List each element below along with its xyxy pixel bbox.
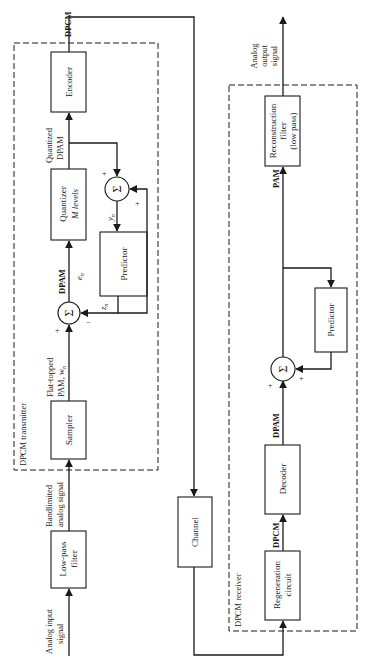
reconstruction-label-1: Reconstruction: [268, 103, 278, 158]
sigma-icon: Σ: [62, 309, 76, 316]
rx-predictor-label: Predictor: [326, 304, 336, 337]
receiver-label: DPCM receiver: [233, 573, 243, 627]
quantized-label-2: DPAM: [55, 136, 65, 160]
reconstruction-filter-block: Reconstruction filter (low pass): [265, 96, 300, 166]
quantizer-block: Quantizer M levels: [51, 169, 86, 240]
bandlimited-label-1: Bandlimited: [44, 484, 54, 527]
quantizer-label-1: Quantizer: [58, 186, 68, 221]
encoder-block: Encoder: [51, 52, 86, 112]
zn-label: zn: [98, 304, 109, 311]
decoder-label: Decoder: [278, 464, 288, 494]
channel-block: Channel: [178, 497, 212, 567]
flat-topped-label-1: Flat-topped: [45, 357, 55, 397]
rx-predictor-input-wire: [283, 268, 331, 287]
plus-sign: +: [268, 381, 273, 390]
yn-label: yn: [105, 214, 116, 222]
rx-pam-label: PAM: [271, 169, 281, 188]
flat-topped-label-2: PAM, wn: [56, 366, 67, 397]
encoder-label: Encoder: [64, 67, 74, 97]
regeneration-circuit-block: Regeneration circuit: [265, 551, 300, 620]
analog-input-label-2: signal: [55, 623, 65, 644]
transmitter-predictor-block: Predictor: [100, 232, 147, 296]
bandlimited-label-2: analog signal: [55, 481, 65, 527]
channel-label: Channel: [190, 517, 200, 547]
lowpass-label-2: filter: [69, 550, 79, 568]
rx-dpam-label: DPAM: [271, 413, 281, 438]
plus-sign: +: [55, 326, 60, 335]
receiver-summer: Σ + +: [268, 357, 304, 390]
sigma-icon: Σ: [276, 365, 290, 372]
plus-sign: +: [299, 374, 304, 383]
dpcm-output-label: DPCM: [63, 12, 73, 38]
analog-output-label-2: output: [259, 45, 269, 67]
reconstruction-label-2: filter: [278, 122, 288, 140]
difference-summer: Σ + −: [55, 302, 91, 335]
sampler-label: Sampler: [64, 415, 74, 445]
transmitter-label: DPCM transmitter: [18, 403, 28, 466]
analog-output-label-1: Analog: [249, 43, 259, 69]
dpam-label: DPAM: [57, 269, 67, 294]
lowpass-filter-block: Low-pass filter: [51, 531, 86, 588]
reconstruction-label-3: (low pass): [288, 112, 298, 149]
plus-sign: +: [102, 169, 107, 178]
decoder-block: Decoder: [265, 445, 300, 514]
receiver-predictor-block: Predictor: [315, 288, 347, 352]
rx-dpcm-label: DPCM: [271, 523, 281, 549]
en-label: en: [74, 273, 85, 280]
receiver-boundary: [229, 85, 357, 631]
rx-predictor-feedback-wire: [296, 352, 331, 369]
regeneration-label-2: circuit: [283, 573, 293, 596]
quantized-label-1: Quantized: [44, 127, 54, 163]
plus-sign: +: [135, 199, 140, 208]
analog-input-label-1: Analog input: [44, 609, 54, 654]
lowpass-label-1: Low-pass: [58, 541, 68, 576]
dpcm-block-diagram: Low-pass filter Sampler Σ + − Quantizer …: [0, 0, 369, 667]
quantizer-label-2: M levels: [70, 188, 80, 220]
minus-sign: −: [86, 318, 91, 327]
predictor-label: Predictor: [119, 248, 129, 281]
sampler-block: Sampler: [51, 401, 86, 459]
sigma-icon: Σ: [110, 185, 124, 192]
regeneration-label-1: Regeneration: [272, 561, 282, 609]
analog-output-label-3: signal: [269, 45, 279, 66]
